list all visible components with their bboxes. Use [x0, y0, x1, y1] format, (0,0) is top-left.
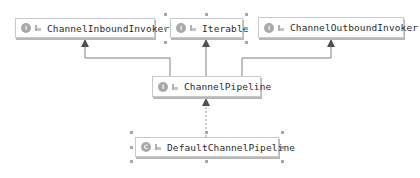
selection-handle-e[interactable]	[281, 146, 284, 149]
public-icon	[190, 25, 196, 31]
arrowhead-inbound	[81, 39, 89, 47]
selection-handle-w[interactable]	[164, 27, 167, 30]
selection-handle-sw[interactable]	[164, 41, 167, 44]
edge-pipeline-to-inbound	[85, 40, 170, 76]
class-icon: C	[141, 142, 151, 152]
selection-handle-nw[interactable]	[130, 131, 133, 134]
node-label: ChannelOutboundInvoker	[290, 22, 418, 33]
selection-handle-se[interactable]	[281, 160, 284, 163]
node-channel-outbound-invoker[interactable]: I ChannelOutboundInvoker	[258, 17, 404, 38]
selection-handle-sw[interactable]	[130, 160, 133, 163]
public-icon	[35, 25, 41, 31]
selection-handle-ne[interactable]	[245, 13, 248, 16]
selection-handle-se[interactable]	[245, 41, 248, 44]
interface-icon: I	[158, 82, 168, 92]
arrowhead-pipeline	[202, 98, 210, 106]
node-label: DefaultChannelPipeline	[167, 142, 295, 153]
interface-icon: I	[264, 23, 274, 33]
interface-icon: I	[176, 23, 186, 33]
selection-handle-nw[interactable]	[164, 13, 167, 16]
diagram-canvas: I ChannelInboundInvoker I Iterable I Cha…	[0, 0, 420, 178]
selection-handle-w[interactable]	[130, 146, 133, 149]
node-label: Iterable	[202, 23, 249, 34]
selection-handle-e[interactable]	[245, 27, 248, 30]
node-channel-inbound-invoker[interactable]: I ChannelInboundInvoker	[15, 18, 155, 38]
public-icon	[155, 144, 161, 150]
arrowhead-iterable	[202, 39, 210, 47]
arrowhead-outbound	[327, 39, 335, 47]
node-iterable[interactable]: I Iterable	[170, 18, 243, 38]
public-icon	[172, 84, 178, 90]
interface-icon: I	[21, 23, 31, 33]
selection-handle-n[interactable]	[205, 13, 208, 16]
edge-pipeline-to-outbound	[242, 40, 331, 76]
selection-handle-n[interactable]	[205, 131, 208, 134]
selection-handle-s[interactable]	[205, 160, 208, 163]
node-label: ChannelPipeline	[184, 81, 271, 92]
node-channel-pipeline[interactable]: I ChannelPipeline	[152, 76, 261, 97]
selection-handle-ne[interactable]	[281, 131, 284, 134]
node-label: ChannelInboundInvoker	[47, 23, 169, 34]
public-icon	[278, 25, 284, 31]
node-default-channel-pipeline[interactable]: C DefaultChannelPipeline	[135, 137, 279, 157]
